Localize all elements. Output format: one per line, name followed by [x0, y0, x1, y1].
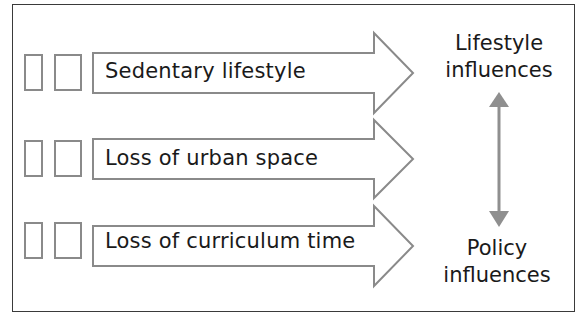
- checkbox-square-3b: [54, 222, 82, 259]
- checkbox-square-1a: [24, 54, 43, 91]
- lifestyle-influences-line1: Lifestyle: [424, 30, 574, 57]
- checkbox-square-1b: [54, 54, 82, 91]
- row-label-loss-of-urban-space: Loss of urban space: [105, 146, 318, 170]
- checkbox-square-2a: [24, 140, 43, 177]
- checkbox-square-2b: [54, 140, 82, 177]
- policy-influences-line1: Policy: [422, 235, 572, 262]
- row-label-sedentary-lifestyle: Sedentary lifestyle: [105, 59, 306, 83]
- checkbox-square-3a: [24, 222, 43, 259]
- policy-influences-line2: influences: [422, 262, 572, 289]
- lifestyle-influences-label: Lifestyle influences: [424, 30, 574, 84]
- double-headed-arrow-icon: [489, 92, 509, 227]
- policy-influences-label: Policy influences: [422, 235, 572, 289]
- row-label-loss-of-curriculum-time: Loss of curriculum time: [105, 229, 355, 253]
- lifestyle-influences-line2: influences: [424, 57, 574, 84]
